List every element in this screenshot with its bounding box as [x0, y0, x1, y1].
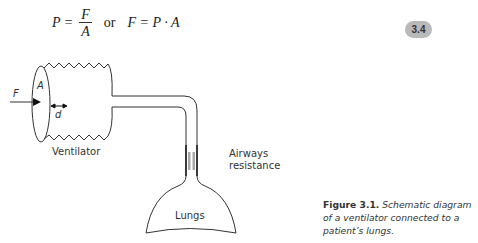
displacement-arrow: [51, 104, 67, 108]
force-arrowhead: [33, 98, 41, 106]
figure-label: Figure 3.1.: [323, 199, 379, 210]
force-label: F: [13, 88, 19, 100]
airways-label-line1: Airways: [229, 148, 268, 160]
bellows-right-end: [108, 64, 112, 96]
tube-outer: [112, 96, 197, 176]
airway-resistance-bar-right: [193, 152, 196, 170]
figure-caption: Figure 3.1. Schematic diagram of a venti…: [323, 198, 478, 237]
lungs-shape: [146, 176, 236, 233]
area-label: A: [37, 80, 44, 92]
airways-label-line2: resistance: [229, 160, 280, 172]
bellows-top-zigzag: [44, 63, 108, 68]
tube-inner: [112, 107, 186, 176]
lungs-label: Lungs: [175, 210, 205, 222]
bellows-bottom-zigzag: [44, 135, 108, 140]
ventilator-label: Ventilator: [52, 146, 100, 158]
airway-resistance-bar-left: [188, 152, 191, 170]
displacement-label: d: [55, 109, 61, 121]
